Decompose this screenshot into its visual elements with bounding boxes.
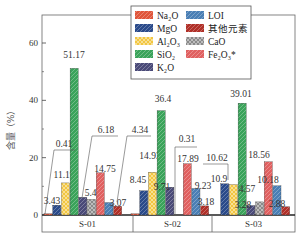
- category-label: S-02: [164, 219, 181, 229]
- data-label: 4.57: [239, 184, 256, 194]
- callout-label: 10.62: [206, 153, 228, 163]
- data-label: 18.56: [248, 150, 270, 160]
- bar-sio2-s-03: [238, 103, 246, 215]
- legend-label: SiO₂: [157, 50, 175, 60]
- legend-label: Al₂O₃: [157, 37, 180, 47]
- callout-label: 4.34: [132, 125, 149, 135]
- legend-swatch: [186, 11, 204, 19]
- legend-swatch: [135, 50, 153, 58]
- legend-swatch: [135, 24, 153, 32]
- callout-label: 0.31: [179, 134, 196, 144]
- legend-label: MgO: [157, 24, 177, 34]
- data-label: 9.23: [195, 181, 212, 191]
- bar-na2o-s-02: [131, 214, 139, 215]
- data-label: 39.01: [230, 89, 252, 99]
- y-tick-label: 40: [29, 95, 39, 105]
- bar-mgo-s-03: [221, 184, 229, 215]
- bar-mgo-s-01: [53, 205, 61, 215]
- y-axis-label: 含量（%）: [5, 106, 16, 151]
- legend-label: LOI: [208, 11, 224, 21]
- data-label: 36.4: [155, 94, 172, 104]
- legend-swatch: [135, 11, 153, 19]
- data-label: 51.17: [63, 50, 85, 60]
- category-label: S-03: [245, 219, 263, 229]
- legend-swatch: [135, 63, 153, 71]
- data-label: 3.18: [198, 197, 215, 207]
- bar--s-02: [201, 206, 209, 215]
- data-label: 9.71: [154, 182, 171, 192]
- data-label: 3.07: [110, 198, 127, 208]
- legend-swatch: [186, 50, 204, 58]
- data-label: 14.75: [94, 164, 116, 174]
- legend-label: Fe₂O₃*: [208, 50, 236, 60]
- data-label: 17.89: [177, 154, 199, 164]
- data-label: 10.18: [257, 175, 279, 185]
- y-tick-label: 0: [34, 210, 39, 220]
- category-label: S-01: [79, 219, 96, 229]
- y-tick-label: 20: [29, 153, 39, 163]
- y-tick-label: 60: [29, 38, 39, 48]
- legend-label: 其他元素: [208, 23, 248, 34]
- bar-cao-s-03: [256, 202, 264, 215]
- bar-al2o3-s-02: [148, 172, 156, 215]
- legend-label: K₂O: [157, 63, 174, 73]
- bar-al2o3-s-01: [61, 183, 69, 215]
- data-label: 8.45: [130, 175, 147, 185]
- callout-label: 6.18: [98, 125, 115, 135]
- legend-label: CaO: [208, 37, 226, 47]
- data-label: 10.9: [211, 174, 228, 184]
- legend-label: Na₂O: [157, 11, 178, 21]
- legend: Na₂OMgOAl₂O₃SiO₂K₂OLOI其他元素CaOFe₂O₃*: [131, 6, 251, 79]
- bar-sio2-s-02: [157, 111, 165, 215]
- bar-fe2o3-s-01: [96, 173, 104, 215]
- bar-cao-s-01: [88, 199, 96, 215]
- legend-swatch: [186, 24, 204, 32]
- bar-fe2o3-s-02: [183, 164, 191, 215]
- legend-swatch: [135, 37, 153, 45]
- legend-swatch: [186, 37, 204, 45]
- callout-label: 0.41: [56, 139, 73, 149]
- bar-k2o-s-01: [79, 197, 87, 215]
- bar-chart: 0204060含量（%）S-01S-02S-033.4311.1951.175.…: [0, 0, 303, 242]
- bar-mgo-s-02: [140, 191, 148, 215]
- data-label: 3.28: [235, 200, 252, 210]
- data-label: 2.88: [269, 199, 286, 209]
